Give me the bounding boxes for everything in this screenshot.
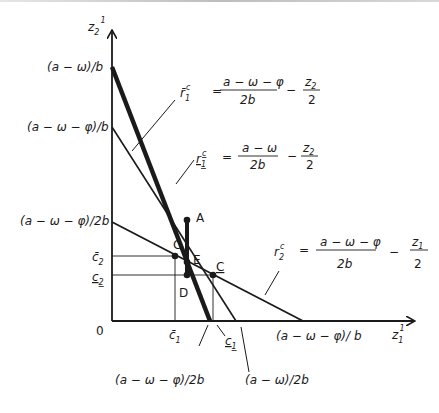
svg-text:2b: 2b (337, 257, 353, 271)
x-axis-label: z11 (391, 324, 405, 345)
x-tick-c1-under: c1 (225, 334, 237, 351)
svg-text:2b: 2b (240, 93, 256, 107)
r1-reaction-line (112, 67, 210, 321)
y-tick-c2-under: c2 (92, 270, 104, 287)
svg-text:r2c: r2c (274, 242, 285, 262)
svg-text:2: 2 (306, 158, 314, 172)
reaction-function-diagram: z21 z11 0 (a − ω)/b (a − ω − φ)/b (a − ω… (0, 0, 439, 413)
y-axis-label: z21 (87, 16, 106, 37)
y-tick-mid: (a − ω − φ)/b (27, 120, 109, 134)
svg-text:−: − (389, 245, 399, 259)
point-e (184, 259, 191, 266)
svg-text:r1c: r1c (196, 149, 207, 169)
label-e: E (193, 253, 201, 267)
point-c-bar (172, 253, 179, 260)
svg-text:a − ω − φ: a − ω − φ (320, 235, 381, 249)
svg-text:a − ω: a − ω (242, 141, 277, 155)
svg-text:2: 2 (308, 93, 316, 107)
svg-text:−: − (286, 83, 296, 97)
r2-reaction-line (112, 222, 303, 321)
svg-text:z2: z2 (302, 141, 314, 157)
svg-text:2: 2 (414, 257, 422, 271)
svg-text:2b: 2b (250, 158, 266, 172)
svg-text:=: = (299, 243, 309, 257)
x-tick-c1-bar: c̄1 (169, 328, 181, 345)
svg-text:=: = (222, 150, 232, 164)
equation-r2: r2c = a − ω − φ 2b − z1 2 (274, 235, 428, 271)
svg-text:a − ω − φ: a − ω − φ (223, 75, 284, 89)
y-tick-top: (a − ω)/b (47, 60, 103, 74)
svg-text:r̄1c: r̄1c (180, 83, 191, 103)
label-d: D (179, 286, 188, 300)
svg-text:=: = (212, 84, 222, 98)
label-a: A (196, 211, 205, 225)
x-tick-full-phi: (a − ω − φ)/ b (276, 329, 362, 343)
equation-r1-bar: r̄1c = a − ω − φ 2b − z2 2 (180, 75, 320, 107)
x-tick-half-phi: (a − ω − φ)/2b (115, 373, 205, 387)
y-tick-low: (a − ω − φ)/2b (20, 214, 110, 228)
label-c-bar: C̄ (173, 238, 181, 252)
y-tick-c2-bar: c̄2 (92, 250, 104, 267)
svg-text:−: − (287, 149, 297, 163)
svg-text:z1: z1 (411, 235, 423, 251)
svg-text:z2: z2 (304, 75, 316, 91)
point-d (184, 272, 191, 279)
point-a (184, 217, 191, 224)
equation-r1-under: r1c = a − ω 2b − z2 2 (196, 141, 318, 172)
x-tick-half: (a − ω)/2b (245, 373, 309, 387)
origin-label: 0 (96, 324, 104, 338)
label-c-under: C (216, 260, 224, 274)
